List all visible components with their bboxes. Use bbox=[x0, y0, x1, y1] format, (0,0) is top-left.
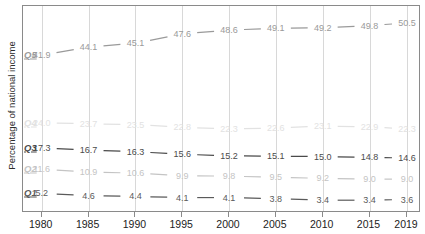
value-label-Q4-2015: 22.9 bbox=[361, 122, 379, 132]
value-label-Q3-2015: 14.8 bbox=[361, 152, 379, 162]
value-label-Q1-1985: 4.6 bbox=[82, 191, 95, 201]
line-segment-Q5 bbox=[104, 44, 121, 45]
value-label-Q3-1990: 16.3 bbox=[127, 147, 145, 157]
value-label-Q1-2005: 3.8 bbox=[270, 194, 283, 204]
value-label-Q5-1985: 44.1 bbox=[80, 42, 98, 52]
value-label-Q1-2015: 3.4 bbox=[363, 195, 376, 205]
x-tick-label-1985: 1985 bbox=[76, 218, 99, 230]
x-tick-2019 bbox=[406, 212, 407, 217]
x-tick-2010 bbox=[322, 212, 323, 217]
value-label-Q2-1995: 9.9 bbox=[176, 171, 189, 181]
value-label-Q5-1990: 45.1 bbox=[127, 38, 145, 48]
value-label-Q5-2015: 49.8 bbox=[361, 21, 379, 31]
line-segment-Q2 bbox=[150, 174, 167, 175]
x-axis: 198019851990199520002005201020152019 bbox=[22, 212, 420, 234]
value-label-Q4-2000: 22.3 bbox=[220, 124, 238, 134]
value-label-Q2-2019: 9.0 bbox=[401, 174, 414, 184]
value-label-Q2-1990: 10.6 bbox=[127, 168, 145, 178]
value-label-Q2-2000: 9.8 bbox=[223, 171, 236, 181]
line-segment-Q3 bbox=[57, 149, 74, 150]
x-tick-label-2000: 2000 bbox=[216, 218, 239, 230]
x-tick-label-1980: 1980 bbox=[29, 218, 52, 230]
line-segment-Q3 bbox=[150, 153, 167, 154]
x-tick-2015 bbox=[369, 212, 370, 217]
series-label-Q2: Q2 bbox=[24, 163, 37, 174]
line-segment-Q4 bbox=[197, 128, 214, 129]
line-segment-Q5 bbox=[338, 26, 355, 27]
series-label-Q3: Q3 bbox=[24, 141, 37, 152]
value-label-Q1-1995: 4.1 bbox=[176, 193, 189, 203]
line-segment-Q5 bbox=[57, 50, 74, 53]
value-label-Q4-2005: 22.6 bbox=[267, 123, 285, 133]
value-label-Q2-2005: 9.5 bbox=[270, 172, 283, 182]
x-tick-label-1995: 1995 bbox=[170, 218, 193, 230]
value-label-Q3-2019: 14.6 bbox=[398, 153, 416, 163]
x-tick-1980 bbox=[41, 212, 42, 217]
value-label-Q4-2010: 23.1 bbox=[314, 121, 332, 131]
value-label-Q1-2019: 3.6 bbox=[401, 195, 414, 205]
value-label-Q3-1985: 16.7 bbox=[80, 145, 98, 155]
value-label-Q4-2019: 22.3 bbox=[398, 124, 416, 134]
x-tick-label-1990: 1990 bbox=[123, 218, 146, 230]
x-tick-2000 bbox=[228, 212, 229, 217]
value-label-Q5-1995: 47.6 bbox=[173, 29, 191, 39]
line-segment-Q4 bbox=[291, 127, 308, 128]
line-segment-Q5 bbox=[150, 37, 167, 40]
value-label-Q4-1995: 22.8 bbox=[173, 122, 191, 132]
value-label-Q2-2015: 9.0 bbox=[363, 174, 376, 184]
series-label-Q4: Q4 bbox=[24, 116, 37, 127]
x-tick-label-2015: 2015 bbox=[357, 218, 380, 230]
chart-container: Percentage of national income 41.944.145… bbox=[0, 0, 425, 234]
line-segment-Q1 bbox=[291, 199, 308, 200]
x-tick-1995 bbox=[181, 212, 182, 217]
line-segment-Q4 bbox=[150, 125, 167, 126]
x-tick-2005 bbox=[275, 212, 276, 217]
value-label-Q3-2010: 15.0 bbox=[314, 152, 332, 162]
value-label-Q3-2000: 15.2 bbox=[220, 151, 238, 161]
value-label-Q1-1980: 5.2 bbox=[35, 188, 48, 198]
x-tick-1990 bbox=[134, 212, 135, 217]
line-segment-Q5 bbox=[197, 31, 214, 32]
value-label-Q3-2005: 15.1 bbox=[267, 151, 285, 161]
line-segment-Q5 bbox=[244, 29, 261, 30]
value-label-Q5-2000: 48.6 bbox=[220, 25, 238, 35]
x-tick-label-2019: 2019 bbox=[394, 218, 417, 230]
line-segment-Q3 bbox=[197, 155, 214, 156]
line-segment-Q3 bbox=[104, 151, 121, 152]
value-label-Q4-1985: 23.7 bbox=[80, 119, 98, 129]
plot-area: 41.944.145.147.648.649.149.249.850.524.0… bbox=[22, 5, 420, 212]
series-label-Q5: Q5 bbox=[24, 49, 37, 60]
line-segment-Q5 bbox=[384, 24, 392, 25]
value-label-Q1-2010: 3.4 bbox=[316, 195, 329, 205]
value-label-Q2-1985: 10.9 bbox=[80, 167, 98, 177]
value-label-Q5-2010: 49.2 bbox=[314, 23, 332, 33]
value-label-Q1-1990: 4.4 bbox=[129, 191, 142, 201]
value-label-Q2-2010: 9.2 bbox=[316, 173, 329, 183]
y-axis-title: Percentage of national income bbox=[6, 16, 17, 196]
value-label-Q5-2005: 49.1 bbox=[267, 23, 285, 33]
value-label-Q1-2000: 4.1 bbox=[223, 193, 236, 203]
value-label-Q4-1990: 23.5 bbox=[127, 120, 145, 130]
x-tick-label-2005: 2005 bbox=[263, 218, 286, 230]
line-segment-Q1 bbox=[57, 194, 74, 195]
value-label-Q5-2019: 50.5 bbox=[398, 18, 416, 28]
series-label-Q1: Q1 bbox=[24, 187, 37, 198]
series-lines bbox=[23, 6, 420, 212]
value-label-Q3-1995: 15.6 bbox=[173, 149, 191, 159]
x-tick-1985 bbox=[88, 212, 89, 217]
line-segment-Q2 bbox=[57, 170, 74, 171]
x-tick-label-2010: 2010 bbox=[310, 218, 333, 230]
